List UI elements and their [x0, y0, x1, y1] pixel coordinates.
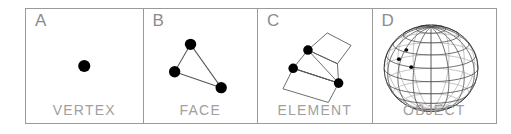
panel-letter-a: A [35, 11, 47, 31]
panel-letter-b: B [153, 11, 165, 31]
panel-label-element: ELEMENT [258, 102, 372, 118]
panel-face: B FACE [144, 9, 259, 123]
element-quads [283, 33, 351, 103]
panel-vertex: A VERTEX [26, 9, 144, 123]
panel-label-vertex: VERTEX [26, 102, 143, 118]
panel-label-face: FACE [144, 102, 258, 118]
element-vertex-dots [288, 45, 343, 88]
panel-letter-d: D [382, 11, 395, 31]
vertex-dot [78, 60, 90, 72]
panel-label-object: OBJECT [373, 102, 496, 118]
panel-letter-c: C [267, 11, 280, 31]
figure-frame: A VERTEX B FACE C [25, 8, 497, 124]
panel-element: C ELEMENT [258, 9, 373, 123]
panel-object: D OBJECT [373, 9, 496, 123]
sphere-wireframe [384, 25, 478, 112]
sphere-vertex-dots [396, 48, 412, 69]
face-edges [174, 44, 221, 87]
face-vertex-dots [168, 39, 226, 94]
